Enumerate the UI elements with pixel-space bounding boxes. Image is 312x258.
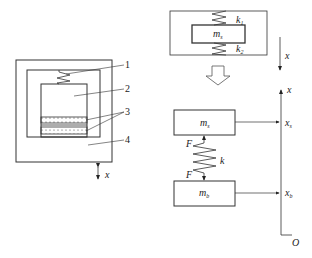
piezo-layer-bottom	[41, 127, 87, 134]
mass-ms-label: ms	[213, 28, 223, 40]
callout-leader-3a	[86, 112, 124, 120]
spring-k-label: k	[220, 155, 225, 166]
mass-ms-label-bottom: ms	[200, 117, 210, 129]
xs-label: xs	[284, 117, 292, 129]
left-figure: 1 2 3 4 x	[16, 59, 130, 180]
spring-1	[57, 70, 70, 84]
xb-label: xb	[284, 187, 292, 199]
transform-arrow-icon	[206, 66, 230, 85]
diagram-canvas: 1 2 3 4 x k1 k2 ms x x O ms xs	[0, 0, 312, 258]
spring-k1-label: k1	[236, 14, 243, 26]
left-axis-label: x	[104, 169, 110, 180]
callout-3: 3	[125, 106, 130, 117]
top-axis-label: x	[284, 50, 290, 61]
force-top-label: F	[185, 138, 193, 149]
spring-k1	[212, 11, 226, 25]
bottom-axis-label: x	[286, 84, 292, 95]
origin-label: O	[292, 237, 299, 248]
bottom-right-figure: x O ms xs F F k mb xb	[174, 84, 299, 248]
callout-leader-2	[74, 89, 124, 96]
top-right-figure: k1 k2 ms x	[170, 11, 290, 70]
mass-mb-label: mb	[199, 187, 209, 199]
spring-k2	[212, 43, 226, 55]
callout-4: 4	[125, 134, 130, 145]
spring-k2-label: k2	[236, 43, 243, 55]
force-bottom-label: F	[185, 169, 193, 180]
callout-leader-3b	[86, 112, 124, 131]
piezo-layer-top	[41, 117, 87, 123]
callout-leader-4	[88, 140, 124, 145]
outer-housing	[16, 60, 112, 162]
callout-1: 1	[125, 59, 130, 70]
callout-2: 2	[125, 83, 130, 94]
spring-k	[193, 143, 216, 173]
